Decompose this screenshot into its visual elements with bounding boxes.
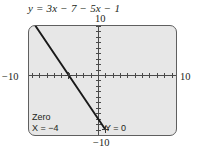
axis-label-right: 10 [180,71,191,82]
zero-readout-title: Zero [32,112,59,123]
axis-label-left: −10 [2,71,18,82]
equation-text: y = 3x − 7 − 5x − 1 [28,2,120,14]
zero-readout-x: X = −4 [32,123,59,134]
equation-caption: y = 3x − 7 − 5x − 1 [28,2,120,14]
zero-readout: Zero X = −4 [32,112,59,134]
calculator-screen[interactable]: Zero X = −4 Y = 0 [28,25,177,136]
calculator-figure: y = 3x − 7 − 5x − 1 10 −10 −10 10 Zero X… [0,0,203,156]
zero-readout-y: Y = 0 [105,123,126,134]
axis-label-bottom: −10 [93,137,109,148]
trace-cursor-zero[interactable] [65,72,72,79]
axis-label-top: 10 [95,13,106,24]
screen-inner: Zero X = −4 Y = 0 [29,26,176,135]
